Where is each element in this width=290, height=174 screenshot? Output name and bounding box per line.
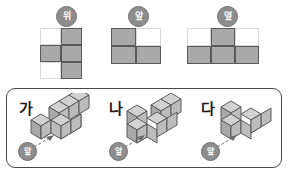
option-da[interactable]: 다 (191, 89, 283, 169)
options-panel: 가 (6, 88, 282, 168)
grid-cell (61, 62, 82, 79)
grid-cell (111, 28, 136, 46)
view-grid-top (40, 28, 82, 79)
grid-cell (211, 28, 235, 46)
view-badge-front-icon: 앞 (128, 6, 149, 27)
option-na[interactable]: 나 (99, 89, 191, 169)
grid-cell (211, 46, 235, 64)
grid-cell (40, 28, 61, 45)
front-direction-arrow-na (124, 135, 146, 149)
grid-cell (111, 46, 136, 64)
front-badge-na-icon: 앞 (109, 142, 128, 161)
grid-cell (40, 62, 61, 79)
option-ga[interactable]: 가 (7, 89, 99, 169)
grid-cell (40, 45, 61, 62)
worksheet-figure: 위 앞 옆 (0, 0, 290, 174)
view-badge-top-icon: 위 (56, 6, 77, 27)
grid-cell (187, 28, 211, 46)
grid-cell (187, 46, 211, 64)
front-direction-arrow-ga (33, 135, 55, 149)
front-direction-arrow-da (216, 135, 238, 149)
view-grid-front (111, 28, 161, 64)
grid-cell (136, 28, 161, 46)
orthographic-views-section: 위 앞 옆 (0, 0, 290, 84)
view-grid-side (187, 28, 259, 64)
grid-cell (235, 46, 259, 64)
view-badge-side-icon: 옆 (217, 6, 238, 27)
front-badge-ga-icon: 앞 (18, 142, 37, 161)
grid-cell (235, 28, 259, 46)
grid-cell (61, 45, 82, 62)
front-badge-da-icon: 앞 (201, 142, 220, 161)
grid-cell (61, 28, 82, 45)
grid-cell (136, 46, 161, 64)
